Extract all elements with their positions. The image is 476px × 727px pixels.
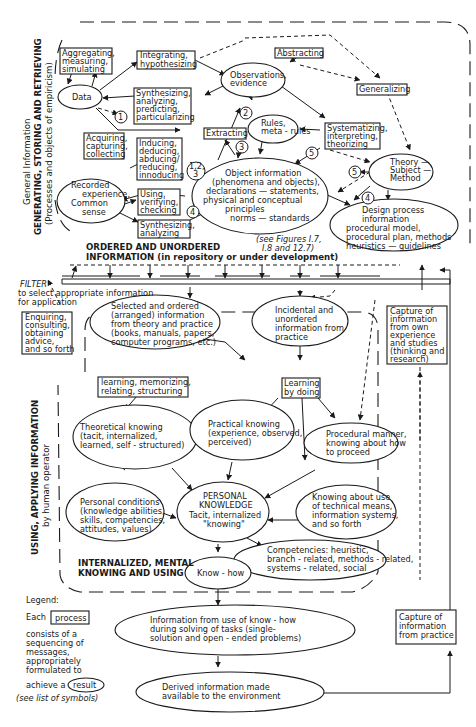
- process-learning-by-doing: Learning by doing: [282, 378, 320, 398]
- marker-4b: 4: [362, 192, 374, 204]
- svg-text:2: 2: [243, 108, 248, 118]
- process-using: Using, verifying, checking: [138, 189, 180, 215]
- svg-text:INFORMATION (in repository or: INFORMATION (in repository or under deve…: [86, 252, 338, 262]
- svg-text:4: 4: [190, 207, 195, 217]
- marker-3: 3: [236, 141, 248, 153]
- svg-text:5: 5: [352, 167, 357, 177]
- svg-text:result: result: [73, 680, 97, 690]
- svg-text:Abstracting: Abstracting: [277, 48, 324, 58]
- svg-text:learned, self - structured): learned, self - structured): [80, 440, 184, 450]
- svg-text:sense: sense: [82, 207, 106, 217]
- result-competencies: Competencies: heuristic, branch - relate…: [234, 540, 413, 580]
- svg-text:Method: Method: [390, 173, 421, 183]
- svg-text:1: 1: [118, 112, 123, 122]
- result-selected-ordered: Selected and ordered (arranged) informat…: [90, 295, 220, 349]
- svg-text:I.8 and 12.7): I.8 and 12.7): [262, 243, 314, 253]
- result-personal-conditions: Personal conditions (knowledge abilities…: [66, 483, 165, 541]
- svg-text:formulated to: formulated to: [26, 665, 82, 675]
- svg-text:"knowing": "knowing": [203, 519, 245, 529]
- process-capture-practice: Capture of information from practice: [396, 610, 456, 644]
- svg-text:innoducing: innoducing: [139, 170, 184, 180]
- marker-1: 1: [115, 111, 127, 123]
- result-theory: Theory — Subject — Method: [369, 154, 433, 190]
- process-inducing: Inducing, deducing, abducing/ reducing, …: [137, 138, 184, 180]
- svg-text:Extracting: Extracting: [206, 128, 248, 138]
- result-procedural-manner: Procedural manner, knowing about how to …: [304, 423, 407, 463]
- marker-4a: 4: [187, 206, 199, 218]
- svg-text:collecting: collecting: [86, 149, 125, 159]
- svg-text:meta - rules: meta - rules: [261, 126, 311, 136]
- svg-text:Each: Each: [26, 612, 46, 622]
- process-enquiring: Enquiring, consulting, obtaining advice,…: [22, 312, 75, 354]
- internalized-label: INTERNALIZED, MENTAL KNOWING AND USING: [78, 558, 194, 578]
- svg-text:to proceed: to proceed: [326, 447, 370, 457]
- svg-text:solution and open - ended prob: solution and open - ended problems): [150, 633, 301, 643]
- process-abstracting: Abstracting: [275, 48, 324, 58]
- svg-text:relating, structuring: relating, structuring: [101, 386, 183, 396]
- result-object-information: Object information (phenomena and object…: [192, 158, 328, 234]
- svg-text:computer programs, etc.): computer programs, etc.): [111, 337, 216, 347]
- svg-text:ORDERED AND UNORDERED: ORDERED AND UNORDERED: [86, 242, 220, 252]
- svg-text:systems - related, social: systems - related, social: [267, 563, 367, 573]
- process-acquiring: Acquiring, capturing, collecting: [84, 133, 128, 159]
- process-synthesizing-top: Synthesizing, analyzing, predicting, par…: [134, 88, 195, 124]
- svg-text:particularizing: particularizing: [136, 112, 195, 122]
- result-recorded-experience: Recorded experience, Common sense: [57, 179, 130, 223]
- svg-text:3: 3: [193, 169, 198, 179]
- svg-text:and so forth: and so forth: [25, 344, 75, 354]
- svg-text:analyzing: analyzing: [140, 228, 179, 238]
- result-know-how: Know - how: [185, 557, 251, 589]
- result-practical-knowing: Practical knowing (experience, observed,…: [190, 400, 302, 460]
- svg-text:practice: practice: [275, 332, 308, 342]
- result-technical-means: Knowing about use of technical means, in…: [296, 485, 398, 539]
- svg-text:checking: checking: [140, 205, 177, 215]
- svg-text:available to the environment: available to the environment: [162, 691, 281, 701]
- process-systematizing: Systematizing, interpreting, theorizing: [325, 123, 388, 149]
- svg-text:Know - how: Know - how: [197, 568, 245, 578]
- process-extracting: Extracting: [204, 128, 248, 139]
- svg-text:process: process: [55, 613, 86, 623]
- svg-text:research): research): [390, 354, 429, 364]
- svg-text:hypothesizing: hypothesizing: [140, 59, 197, 69]
- process-learning-memorizing: learning, memorizing, relating, structur…: [98, 377, 191, 397]
- svg-text:for application: for application: [18, 297, 77, 307]
- svg-text:achieve a: achieve a: [26, 680, 66, 690]
- bottom-side-label: USING, APPLYING INFORMATION by human ope…: [30, 400, 51, 555]
- svg-text:Data: Data: [72, 92, 92, 102]
- svg-text:4: 4: [365, 193, 370, 203]
- information-flow-diagram: General Information GENERATING, STORING …: [0, 0, 476, 727]
- result-info-from-use: Information from use of know - how durin…: [115, 605, 355, 655]
- svg-text:theorizing: theorizing: [327, 139, 368, 149]
- svg-text:GENERATING, STORING AND RETRIE: GENERATING, STORING AND RETRIEVING: [33, 38, 43, 235]
- svg-text:perceived): perceived): [208, 437, 252, 447]
- svg-text:by doing: by doing: [284, 387, 320, 397]
- marker-2: 2: [240, 107, 252, 119]
- process-capture-own: Capture of information from own experien…: [387, 306, 447, 364]
- svg-text:KNOWING AND USING: KNOWING AND USING: [78, 568, 184, 578]
- result-rules: Rules, meta - rules: [248, 115, 311, 143]
- result-theoretical-knowing: Theoretical knowing (tacit, internalized…: [73, 405, 197, 469]
- process-generalizing: Generalizing: [357, 84, 411, 95]
- svg-text:and so forth: and so forth: [312, 519, 362, 529]
- process-synthesizing-bottom: Synthesizing, analyzing: [138, 220, 195, 238]
- svg-text:USING, APPLYING INFORMATION: USING, APPLYING INFORMATION: [30, 400, 40, 555]
- svg-text:Generalizing: Generalizing: [359, 84, 411, 94]
- svg-text:from practice: from practice: [399, 630, 454, 640]
- marker-1-2-3: 1,2, 3: [187, 161, 205, 180]
- svg-text:3: 3: [239, 142, 244, 152]
- legend: Legend: Each process consists of a seque…: [16, 595, 104, 703]
- right-inner-boundary: [410, 335, 420, 580]
- svg-text:5: 5: [309, 148, 314, 158]
- marker-5b: 5: [349, 166, 361, 178]
- svg-text:simulating: simulating: [62, 64, 105, 74]
- svg-text:heuristics — guidelines: heuristics — guidelines: [346, 241, 441, 251]
- result-data: Data: [58, 85, 102, 109]
- result-derived-info: Derived information made available to th…: [136, 672, 324, 712]
- svg-text:Legend:: Legend:: [26, 595, 59, 605]
- result-personal-knowledge: PERSONAL KNOWLEDGE Tacit, internalized "…: [177, 482, 269, 542]
- svg-text:(see list of symbols): (see list of symbols): [16, 693, 98, 703]
- svg-text:KNOWLEDGE: KNOWLEDGE: [199, 500, 253, 510]
- result-design-process: Design process information procedural mo…: [330, 199, 458, 251]
- svg-text:by human operator: by human operator: [41, 444, 51, 527]
- svg-text:attitudes, values): attitudes, values): [80, 524, 152, 534]
